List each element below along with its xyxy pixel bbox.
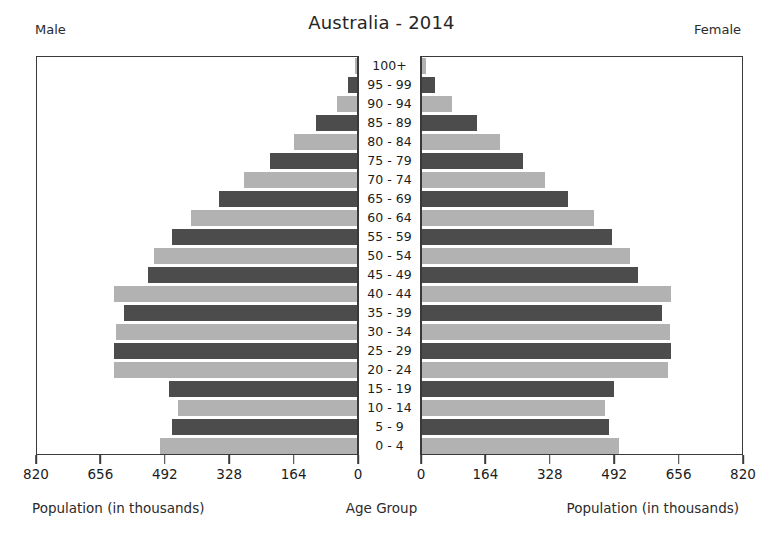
male-bar-5-9 [172, 419, 357, 435]
male-bar-55-59 [172, 229, 357, 245]
female-bar-rows [422, 57, 742, 454]
bar-row [37, 304, 357, 323]
bar-row [422, 95, 742, 114]
male-bar-70-74 [244, 172, 357, 188]
male-bar-90-94 [337, 96, 357, 112]
bar-row [37, 247, 357, 266]
bar-row [37, 171, 357, 190]
age-group-label: 55 - 59 [359, 227, 420, 246]
female-tick-label: 0 [417, 466, 426, 482]
male-bar-80-84 [294, 134, 357, 150]
male-bar-30-34 [116, 324, 357, 340]
bar-row [37, 399, 357, 418]
male-bar-35-39 [124, 305, 357, 321]
age-group-label: 70 - 74 [359, 170, 420, 189]
male-bar-40-44 [114, 286, 357, 302]
axis-tick [100, 455, 102, 464]
bar-row [37, 133, 357, 152]
axis-tick [678, 455, 680, 464]
male-x-axis: 8206564923281640 [36, 455, 358, 485]
bar-row [37, 152, 357, 171]
age-group-label: 65 - 69 [359, 189, 420, 208]
bar-row [37, 361, 357, 380]
axis-tick [357, 455, 359, 464]
age-group-label: 45 - 49 [359, 265, 420, 284]
age-group-label: 35 - 39 [359, 303, 420, 322]
female-bar-0-4 [422, 438, 619, 454]
female-plot-area [421, 56, 743, 455]
male-bar-50-54 [154, 248, 357, 264]
axis-tick [613, 455, 615, 464]
female-bar-5-9 [422, 419, 609, 435]
male-bar-0-4 [160, 438, 357, 454]
female-bar-30-34 [422, 324, 670, 340]
bar-row [422, 323, 742, 342]
center-axis-caption: Age Group [346, 500, 418, 516]
female-x-axis: 0164328492656820 [421, 455, 743, 485]
age-group-label: 40 - 44 [359, 284, 420, 303]
age-group-label: 75 - 79 [359, 151, 420, 170]
bar-row [422, 190, 742, 209]
bar-row [422, 285, 742, 304]
male-bar-60-64 [191, 210, 357, 226]
male-bar-rows [37, 57, 357, 454]
age-group-label: 100+ [359, 56, 420, 75]
male-tick-label: 0 [354, 466, 363, 482]
bar-row [422, 171, 742, 190]
axis-tick [164, 455, 166, 464]
bar-row [422, 342, 742, 361]
bar-row [37, 266, 357, 285]
bar-row [422, 209, 742, 228]
female-bar-25-29 [422, 343, 671, 359]
axis-tick [35, 455, 37, 464]
male-bar-85-89 [316, 115, 357, 131]
bar-row [422, 76, 742, 95]
female-bar-35-39 [422, 305, 662, 321]
male-bar-65-69 [219, 191, 357, 207]
female-bar-100+ [422, 58, 426, 74]
male-bar-20-24 [114, 362, 357, 378]
bar-row [422, 266, 742, 285]
female-bar-40-44 [422, 286, 671, 302]
female-bar-45-49 [422, 267, 638, 283]
bar-row [37, 285, 357, 304]
axis-tick [293, 455, 295, 464]
female-bar-85-89 [422, 115, 477, 131]
bar-row [422, 133, 742, 152]
male-bar-100+ [355, 58, 357, 74]
male-bar-95-99 [348, 77, 357, 93]
bar-row [422, 228, 742, 247]
bar-row [37, 95, 357, 114]
female-bar-15-19 [422, 381, 614, 397]
population-pyramid-chart: Male Australia - 2014 Female 100+95 - 99… [0, 0, 763, 547]
female-bar-80-84 [422, 134, 500, 150]
age-group-label: 5 - 9 [359, 417, 420, 436]
male-tick-label: 492 [152, 466, 178, 482]
axis-tick [742, 455, 744, 464]
bar-row [422, 304, 742, 323]
age-group-label: 0 - 4 [359, 436, 420, 455]
bar-row [37, 209, 357, 228]
bar-row [422, 57, 742, 76]
female-bar-55-59 [422, 229, 612, 245]
axis-tick [228, 455, 230, 464]
female-bar-20-24 [422, 362, 668, 378]
female-bar-65-69 [422, 191, 568, 207]
age-group-label: 85 - 89 [359, 113, 420, 132]
bar-row [37, 342, 357, 361]
right-axis-caption: Population (in thousands) [567, 500, 739, 516]
bar-row [422, 152, 742, 171]
bar-row [37, 323, 357, 342]
male-bar-10-14 [178, 400, 357, 416]
bar-row [37, 76, 357, 95]
age-group-label: 50 - 54 [359, 246, 420, 265]
bar-row [422, 437, 742, 455]
bar-row [37, 380, 357, 399]
age-group-label: 20 - 24 [359, 360, 420, 379]
axis-tick [549, 455, 551, 464]
female-bar-75-79 [422, 153, 523, 169]
female-tick-label: 656 [666, 466, 692, 482]
female-bar-90-94 [422, 96, 452, 112]
bar-row [422, 380, 742, 399]
age-group-label: 90 - 94 [359, 94, 420, 113]
